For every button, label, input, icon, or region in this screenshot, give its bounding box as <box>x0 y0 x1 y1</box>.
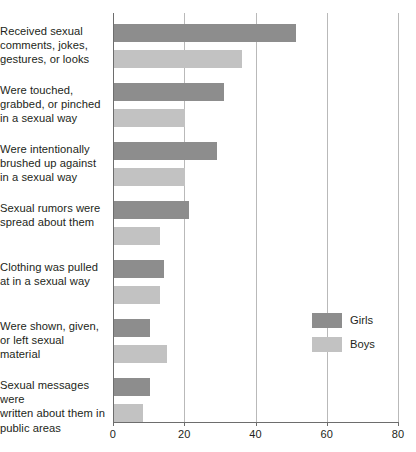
x-tick-label: 40 <box>249 428 262 440</box>
category-label-line: Received sexual <box>0 25 83 37</box>
legend-label: Boys <box>350 337 375 352</box>
category-label-line: Sexual rumors were <box>0 202 100 214</box>
legend-swatch-icon <box>312 337 342 352</box>
bar-boys <box>114 50 242 68</box>
category-label-line: brushed up against <box>0 157 96 169</box>
gridline-40 <box>256 13 257 422</box>
x-tick-label: 60 <box>320 428 333 440</box>
category-label-line: Were intentionally <box>0 143 90 155</box>
bar-boys <box>114 227 160 245</box>
legend-label: Girls <box>350 313 373 328</box>
bar-boys <box>114 404 143 422</box>
category-label-line: Were touched, <box>0 84 73 96</box>
legend-swatch-icon <box>312 313 342 328</box>
category-label-line: comments, jokes, <box>0 39 88 51</box>
category-label-line: public areas <box>0 422 61 434</box>
category-label-line: spread about them <box>0 216 94 228</box>
category-label-line: written about them in <box>0 407 105 419</box>
bar-girls <box>114 260 164 278</box>
gridline-60 <box>327 13 328 422</box>
category-label: Clothing was pulled at in a sexual way <box>0 260 105 288</box>
x-tick-60 <box>327 422 328 426</box>
category-label-line: in a sexual way <box>0 171 77 183</box>
category-label-line: or left sexual material <box>0 334 64 360</box>
category-label: Sexual rumors were spread about them <box>0 201 105 229</box>
plot-area: Received sexual comments, jokes, gesture… <box>113 13 398 422</box>
bar-girls <box>114 24 296 42</box>
category-label-line: gestures, or looks <box>0 53 89 65</box>
x-tick-80 <box>398 422 399 426</box>
bar-girls <box>114 142 217 160</box>
bar-boys <box>114 109 185 127</box>
category-label-line: grabbed, or pinched <box>0 98 100 110</box>
category-label: Sexual messages were written about them … <box>0 378 105 435</box>
bar-boys <box>114 168 185 186</box>
horizontal-bar-chart: Received sexual comments, jokes, gesture… <box>0 0 416 452</box>
bar-girls <box>114 378 150 396</box>
category-label-line: at in a sexual way <box>0 275 90 287</box>
category-label-line: in a sexual way <box>0 112 77 124</box>
bar-girls <box>114 319 150 337</box>
bar-boys <box>114 345 167 363</box>
category-label: Were shown, given, or left sexual materi… <box>0 319 105 362</box>
x-tick-20 <box>184 422 185 426</box>
x-tick-label: 0 <box>110 428 116 440</box>
category-label-line: Were shown, given, <box>0 320 99 332</box>
x-tick-label: 80 <box>392 428 405 440</box>
category-label: Received sexual comments, jokes, gesture… <box>0 24 105 67</box>
x-tick-0 <box>113 422 114 426</box>
category-label-line: Clothing was pulled <box>0 261 98 273</box>
category-label-line: Sexual messages were <box>0 379 89 405</box>
x-tick-40 <box>256 422 257 426</box>
x-tick-label: 20 <box>178 428 191 440</box>
gridline-80 <box>398 13 399 422</box>
bar-girls <box>114 83 224 101</box>
bar-boys <box>114 286 160 304</box>
category-label: Were intentionally brushed up against in… <box>0 142 105 185</box>
bar-girls <box>114 201 189 219</box>
category-label: Were touched, grabbed, or pinched in a s… <box>0 83 105 126</box>
